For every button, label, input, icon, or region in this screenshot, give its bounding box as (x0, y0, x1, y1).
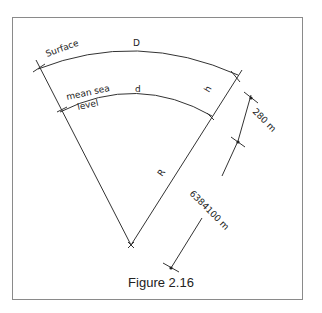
dim-dot-mid (236, 140, 239, 143)
dim-dot-bottom (169, 266, 172, 269)
height-dim-label: 280 m (251, 106, 278, 133)
radius-dim-line-lower (171, 218, 202, 268)
radius-label: R (155, 167, 167, 178)
surface-arc (38, 51, 238, 75)
radius-dim-label: 6384100 m (188, 188, 232, 232)
height-dim-line (238, 95, 251, 141)
figure-caption: Figure 2.16 (0, 275, 322, 290)
msl-arc-label: d (135, 84, 141, 94)
radius-dim-line-upper (222, 141, 238, 176)
dim-dot-top (249, 96, 252, 99)
surface-arc-label: D (133, 38, 140, 48)
earth-curvature-diagram: Surface D mean sea level d h R 280 m 638… (0, 0, 322, 313)
surface-label: Surface (44, 38, 80, 59)
msl-label-line2: level (76, 98, 99, 112)
height-label: h (202, 84, 214, 94)
